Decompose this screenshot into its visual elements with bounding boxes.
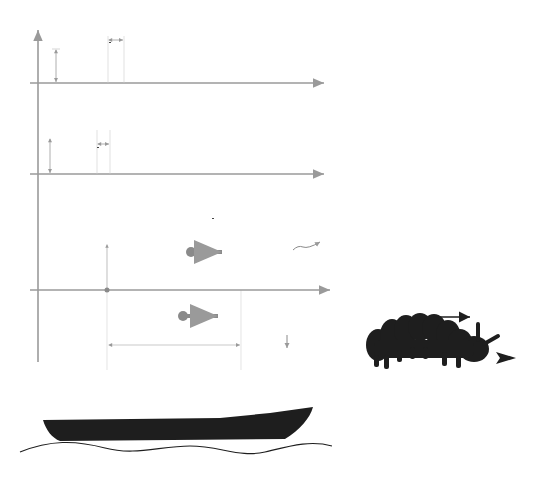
rowing-boat-illustration bbox=[20, 407, 332, 454]
figure-canvas bbox=[0, 0, 536, 478]
wave-a-period-label bbox=[109, 42, 111, 43]
envelope-eq-num bbox=[212, 218, 214, 219]
caterpillar-illustration bbox=[366, 313, 516, 369]
caterpillar-group-velocity-arrow bbox=[496, 352, 516, 364]
wave-cd-plot bbox=[30, 242, 330, 370]
wave-b-plot bbox=[30, 130, 324, 174]
wave-diagram-figure bbox=[0, 0, 536, 478]
wave-a-plot bbox=[30, 36, 324, 83]
wave-d-pointer bbox=[293, 242, 320, 250]
wave-a-period-num bbox=[109, 42, 111, 43]
water-line bbox=[20, 442, 332, 453]
wave-b-period-label bbox=[97, 147, 99, 148]
boat-hull bbox=[43, 407, 313, 441]
envelope-equation bbox=[212, 212, 214, 223]
wave-b-period-num bbox=[97, 147, 99, 148]
